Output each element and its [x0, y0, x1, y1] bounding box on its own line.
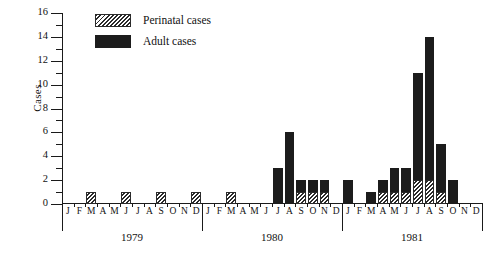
bar-o-1981 [448, 180, 458, 204]
bar-segment-perinatal [191, 192, 201, 204]
y-tick-label: 12 [22, 55, 48, 65]
bar-segment-adult [296, 180, 306, 192]
y-tick-major [51, 180, 62, 181]
legend-label-perinatal: Perinatal cases [143, 12, 211, 29]
bar-segment-perinatal [401, 192, 411, 204]
bar-segment-perinatal [390, 192, 400, 204]
bar-a-1981 [425, 37, 435, 204]
y-tick-major [51, 109, 62, 110]
bar-segment-perinatal [436, 192, 446, 204]
year-label: 1980 [242, 231, 302, 243]
bar-segment-adult [366, 192, 376, 204]
bar-segment-perinatal [308, 192, 318, 204]
bar-segment-perinatal [86, 192, 96, 204]
bar-segment-perinatal [320, 192, 330, 204]
bar-segment-adult [320, 180, 330, 192]
solid-swatch-icon [95, 35, 131, 48]
bar-j-1979 [121, 192, 131, 204]
y-tick-major [51, 37, 62, 38]
bar-j-1981 [413, 73, 423, 204]
y-tick-major [51, 204, 62, 205]
bar-segment-perinatal [425, 180, 435, 204]
year-separator [62, 203, 63, 231]
bar-m-1981 [366, 192, 376, 204]
y-tick-label: 4 [22, 150, 48, 160]
bar-segment-adult [425, 37, 435, 180]
year-separator [202, 203, 203, 231]
bar-s-1980 [296, 180, 306, 204]
bar-m-1981 [390, 168, 400, 204]
bar-segment-adult [436, 144, 446, 192]
bar-segment-adult [378, 180, 388, 192]
year-label: 1979 [102, 231, 162, 243]
chart-container: Cases 0246810121416 JFMAMJJASONDJFMAMJJA… [0, 0, 495, 255]
bar-a-1980 [285, 132, 295, 204]
bar-s-1981 [436, 144, 446, 204]
y-tick-label: 14 [22, 31, 48, 41]
y-tick-label: 8 [22, 103, 48, 113]
bar-m-1980 [226, 192, 236, 204]
y-tick-label: 2 [22, 174, 48, 184]
year-separator [342, 203, 343, 231]
bar-segment-adult [273, 168, 283, 204]
bar-j-1980 [273, 168, 283, 204]
bar-segment-adult [285, 132, 295, 204]
y-tick-major [51, 61, 62, 62]
bar-d-1979 [191, 192, 201, 204]
y-axis-title: Cases [31, 63, 43, 133]
year-label: 1981 [382, 231, 442, 243]
bar-m-1979 [86, 192, 96, 204]
y-tick-label: 0 [22, 198, 48, 208]
y-tick-major [51, 132, 62, 133]
legend-label-adult: Adult cases [143, 33, 196, 50]
bar-j-1981 [401, 168, 411, 204]
y-tick-major [51, 13, 62, 14]
hatch-swatch-icon [95, 14, 131, 27]
bar-segment-perinatal [226, 192, 236, 204]
y-tick-major [51, 85, 62, 86]
bar-segment-adult [390, 168, 400, 192]
bar-o-1980 [308, 180, 318, 204]
bar-segment-perinatal [296, 192, 306, 204]
y-tick-major [51, 156, 62, 157]
y-tick-label: 16 [22, 7, 48, 17]
y-tick-label: 6 [22, 126, 48, 136]
bar-segment-adult [401, 168, 411, 192]
bar-segment-adult [308, 180, 318, 192]
bar-segment-perinatal [413, 180, 423, 204]
bar-segment-adult [343, 180, 353, 204]
bar-segment-adult [413, 73, 423, 180]
bar-s-1979 [156, 192, 166, 204]
bar-n-1980 [320, 180, 330, 204]
bar-segment-perinatal [121, 192, 131, 204]
bar-segment-adult [448, 180, 458, 204]
year-separator [482, 203, 483, 231]
bar-j-1981 [343, 180, 353, 204]
bar-segment-perinatal [156, 192, 166, 204]
bar-a-1981 [378, 180, 388, 204]
bar-segment-perinatal [378, 192, 388, 204]
y-tick-label: 10 [22, 79, 48, 89]
